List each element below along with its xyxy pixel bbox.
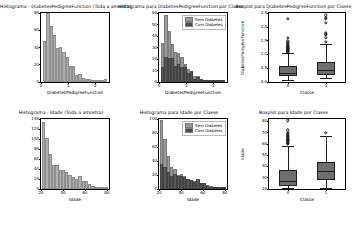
x-tick-mark bbox=[213, 82, 214, 84]
y-tick-mark bbox=[157, 175, 159, 176]
boxplot-cap-upper bbox=[282, 146, 294, 147]
y-tick-label: 60 bbox=[152, 145, 157, 149]
x-tick-label: 1 bbox=[67, 84, 70, 88]
boxplot-whisker-upper bbox=[288, 146, 289, 170]
x-tick-mark bbox=[186, 82, 187, 84]
plot-area: 2030405060708001 bbox=[269, 119, 345, 189]
boxplot-median bbox=[317, 70, 334, 71]
x-tick-mark bbox=[68, 82, 69, 84]
legend-item-com-diabetes: Com Diabetes bbox=[185, 22, 222, 27]
y-tick-mark bbox=[267, 13, 269, 14]
y-tick-mark bbox=[39, 159, 41, 160]
y-tick-label: 100 bbox=[31, 137, 39, 141]
y-tick-mark bbox=[39, 13, 41, 14]
y-tick-mark bbox=[157, 36, 159, 37]
y-tick-label: 50 bbox=[262, 153, 267, 157]
legend[interactable]: Sem Diabetes Com Diabetes bbox=[182, 121, 225, 136]
y-axis-label: Idade bbox=[240, 148, 245, 160]
panel-idade-boxplot: Boxplot para Idade por Classe 2030405060… bbox=[228, 107, 359, 219]
y-tick-label: 100 bbox=[149, 117, 157, 121]
panel-title: Histograma para Idade por Classe bbox=[118, 110, 240, 116]
x-axis-label: DiabetesPedigreeFunction bbox=[47, 90, 103, 95]
axes-dpf-boxplot: 0.00.51.01.52.02.501 DiabetesPedigreeFun… bbox=[268, 12, 346, 83]
y-tick-label: 1.0 bbox=[261, 52, 267, 56]
y-tick-label: 40 bbox=[34, 46, 39, 50]
y-tick-label: 30 bbox=[262, 176, 267, 180]
y-tick-label: 140 bbox=[31, 117, 39, 121]
y-tick-mark bbox=[157, 133, 159, 134]
panel-idade-hist-class: Histograma para Idade por Classe 0204060… bbox=[118, 107, 240, 219]
y-tick-label: 2.0 bbox=[261, 25, 267, 29]
y-tick-mark bbox=[157, 147, 159, 148]
x-tick-label: 0 bbox=[158, 84, 161, 88]
panel-dpf-hist-all: Histograma - DiabetesPedigreeFunction (T… bbox=[0, 0, 122, 112]
legend[interactable]: Sem Diabetes Com Diabetes bbox=[182, 15, 225, 30]
panel-idade-hist-all: Histograma - Idade (Toda a amostra) 0204… bbox=[0, 107, 122, 219]
boxplot-box bbox=[317, 62, 334, 75]
y-tick-mark bbox=[39, 179, 41, 180]
axes-idade-boxplot: 2030405060708001 Idade Classe bbox=[268, 118, 346, 190]
y-tick-label: 40 bbox=[34, 167, 39, 171]
x-tick-mark bbox=[107, 189, 108, 191]
y-tick-label: 0.5 bbox=[261, 66, 267, 70]
x-tick-label: 0 bbox=[287, 84, 290, 88]
y-tick-label: 2.5 bbox=[261, 11, 267, 15]
axes-dpf-hist-all: 020406080012 DiabetesPedigreeFunction bbox=[40, 12, 110, 83]
panel-title: Boxplot para DiabetesPedigreeFunction po… bbox=[228, 4, 359, 10]
x-tick-mark bbox=[41, 189, 42, 191]
boxplot-whisker-upper bbox=[326, 136, 327, 162]
y-tick-mark bbox=[39, 119, 41, 120]
axes-idade-hist-all: 02040608010012014020406080 Idade bbox=[40, 118, 110, 190]
x-tick-mark bbox=[159, 189, 160, 191]
x-tick-label: 60 bbox=[200, 191, 205, 195]
panel-title: Boxplot para Idade por Classe bbox=[228, 110, 359, 116]
y-tick-label: 120 bbox=[31, 127, 39, 131]
x-tick-mark bbox=[288, 189, 289, 191]
x-tick-label: 20 bbox=[156, 191, 161, 195]
y-tick-mark bbox=[39, 47, 41, 48]
x-axis-label: Classe bbox=[300, 197, 314, 202]
y-tick-mark bbox=[267, 121, 269, 122]
x-tick-label: 80 bbox=[222, 191, 227, 195]
y-tick-label: 30 bbox=[152, 46, 157, 50]
y-tick-mark bbox=[267, 189, 269, 190]
y-tick-label: 40 bbox=[262, 164, 267, 168]
x-tick-mark bbox=[225, 189, 226, 191]
boxplot-outlier bbox=[324, 36, 327, 39]
panel-title: Histograma - Idade (Toda a amostra) bbox=[0, 110, 122, 116]
y-tick-label: 20 bbox=[152, 173, 157, 177]
x-tick-mark bbox=[85, 189, 86, 191]
axes-dpf-hist-class: 0102030405060012 Sem Diabetes Com Diabet… bbox=[158, 12, 228, 83]
legend-swatch-icon bbox=[185, 22, 193, 27]
x-tick-label: 60 bbox=[82, 191, 87, 195]
y-tick-label: 20 bbox=[34, 177, 39, 181]
boxplot-box bbox=[279, 170, 296, 186]
y-tick-mark bbox=[267, 155, 269, 156]
boxplot-whisker-upper bbox=[326, 44, 327, 62]
x-tick-label: 0 bbox=[40, 84, 43, 88]
histogram-bar bbox=[222, 80, 225, 82]
y-tick-mark bbox=[39, 149, 41, 150]
y-tick-mark bbox=[39, 129, 41, 130]
y-tick-mark bbox=[39, 30, 41, 31]
y-axis-label: DiabetesPedigreeFunction bbox=[240, 20, 245, 75]
boxplot-whisker-upper bbox=[288, 53, 289, 67]
plot-area: 0.00.51.01.52.02.501 bbox=[269, 13, 345, 82]
legend-label: Com Diabetes bbox=[195, 128, 222, 133]
legend-item-com-diabetes: Com Diabetes bbox=[185, 128, 222, 133]
x-tick-label: 40 bbox=[60, 191, 65, 195]
y-tick-label: 80 bbox=[152, 131, 157, 135]
x-axis-label: DiabetesPedigreeFunction bbox=[165, 90, 221, 95]
y-tick-label: 20 bbox=[34, 63, 39, 67]
x-tick-label: 1 bbox=[185, 84, 188, 88]
y-tick-label: 50 bbox=[152, 23, 157, 27]
boxplot-outlier bbox=[324, 131, 327, 134]
legend-label: Com Diabetes bbox=[195, 22, 222, 27]
y-tick-label: 10 bbox=[152, 69, 157, 73]
y-tick-label: 20 bbox=[262, 187, 267, 191]
figure-row-dpf: Histograma - DiabetesPedigreeFunction (T… bbox=[0, 0, 359, 112]
x-axis-label: Idade bbox=[69, 197, 81, 202]
x-axis-label: Classe bbox=[300, 90, 314, 95]
y-tick-mark bbox=[39, 169, 41, 170]
x-axis-label: Idade bbox=[187, 197, 199, 202]
